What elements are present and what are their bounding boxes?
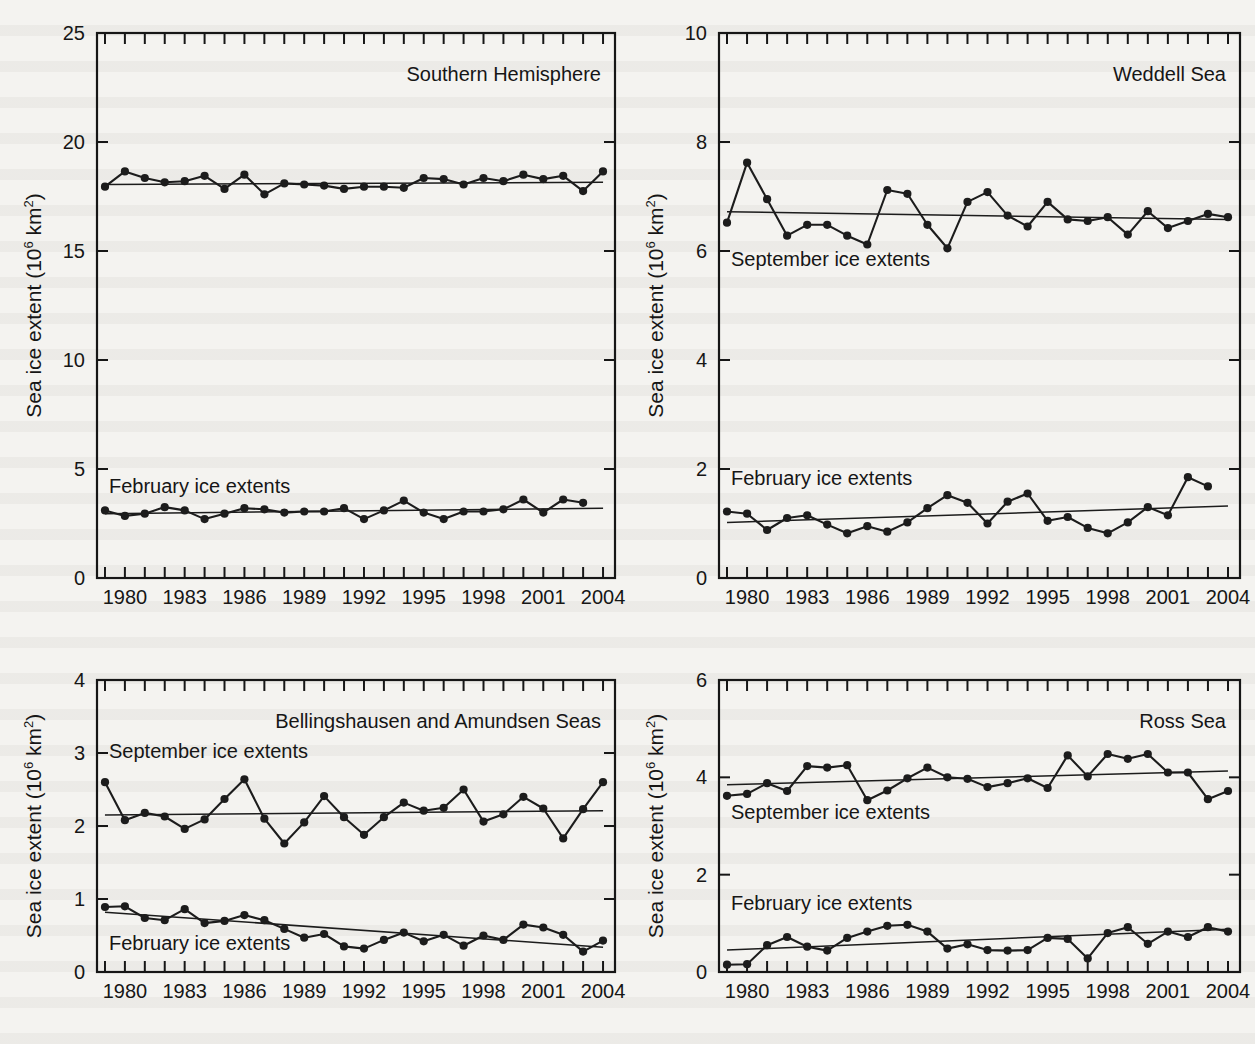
data-point [519, 793, 527, 801]
x-tick-label: 2004 [1206, 586, 1251, 608]
data-point [923, 221, 931, 229]
data-point [121, 167, 129, 175]
data-point [1204, 482, 1212, 490]
data-point [783, 514, 791, 522]
data-point [1144, 940, 1152, 948]
data-point [763, 526, 771, 534]
data-point [220, 185, 228, 193]
data-point [121, 902, 129, 910]
panel-title: Southern Hemisphere [406, 63, 601, 85]
x-tick-label: 1995 [1025, 586, 1070, 608]
data-point [400, 184, 408, 192]
data-point [161, 178, 169, 186]
data-point [101, 778, 109, 786]
data-point [121, 816, 129, 824]
x-tick-label: 2004 [581, 586, 626, 608]
y-tick-label: 0 [74, 567, 85, 589]
y-axis-title: Sea ice extent (106 km2) [21, 714, 45, 939]
data-point [1004, 947, 1012, 955]
series-label-february: February ice extents [109, 475, 290, 497]
trend-line-september [105, 811, 603, 815]
data-point [579, 805, 587, 813]
x-tick-label: 1992 [965, 980, 1010, 1002]
data-point [380, 506, 388, 514]
data-point [983, 783, 991, 791]
y-axis-title-text: Sea ice extent (106 km2) [21, 193, 45, 418]
y-tick-label: 4 [696, 349, 707, 371]
series-label-september: September ice extents [109, 740, 308, 762]
data-point [803, 221, 811, 229]
x-tick-label: 1986 [845, 980, 890, 1002]
data-point [943, 244, 951, 252]
data-point [141, 510, 149, 518]
data-point [903, 190, 911, 198]
data-point [599, 937, 607, 945]
data-point [400, 497, 408, 505]
data-point [1064, 215, 1072, 223]
data-point [1184, 768, 1192, 776]
data-point [220, 510, 228, 518]
data-point [201, 919, 209, 927]
data-point [923, 764, 931, 772]
data-point [579, 187, 587, 195]
x-tick-label: 1998 [461, 980, 506, 1002]
data-point [943, 945, 951, 953]
data-point [1204, 923, 1212, 931]
y-tick-label: 8 [696, 131, 707, 153]
data-point [380, 936, 388, 944]
data-point [240, 171, 248, 179]
data-point [499, 810, 507, 818]
data-point [723, 219, 731, 227]
x-tick-label: 1995 [401, 980, 446, 1002]
data-point [823, 764, 831, 772]
data-point [141, 914, 149, 922]
data-point [440, 804, 448, 812]
data-point [1164, 928, 1172, 936]
y-axis-ticks: 0510152025 [63, 22, 615, 589]
data-point [1164, 224, 1172, 232]
data-point [360, 831, 368, 839]
data-point [400, 799, 408, 807]
data-point [883, 528, 891, 536]
data-point [599, 778, 607, 786]
data-point [1124, 518, 1132, 526]
data-point [539, 804, 547, 812]
data-point [300, 818, 308, 826]
data-point [743, 159, 751, 167]
data-point [1104, 529, 1112, 537]
data-point [181, 177, 189, 185]
data-point [923, 928, 931, 936]
y-tick-label: 2 [696, 458, 707, 480]
y-tick-label: 3 [74, 742, 85, 764]
data-point [1204, 210, 1212, 218]
x-tick-label: 2004 [1206, 980, 1251, 1002]
data-point [220, 917, 228, 925]
data-point [519, 171, 527, 179]
data-point [863, 522, 871, 530]
data-point [723, 961, 731, 969]
y-tick-label: 6 [696, 669, 707, 691]
data-point [1164, 511, 1172, 519]
x-tick-label: 1980 [725, 586, 770, 608]
data-point [883, 922, 891, 930]
data-point [499, 177, 507, 185]
panel-southern-hemisphere: 1980198319861989199219951998200120040510… [0, 0, 628, 616]
data-point [823, 221, 831, 229]
x-tick-label: 2001 [1146, 980, 1191, 1002]
data-point [559, 172, 567, 180]
x-tick-labels: 198019831986198919921995199820012004 [103, 980, 626, 1002]
data-point [863, 928, 871, 936]
data-point [943, 773, 951, 781]
data-point [1064, 935, 1072, 943]
series-label-february: February ice extents [109, 932, 290, 954]
data-point [260, 505, 268, 513]
y-tick-label: 4 [74, 669, 85, 691]
y-axis-title-text: Sea ice extent (106 km2) [643, 193, 667, 418]
data-point [579, 499, 587, 507]
x-tick-label: 1983 [785, 980, 830, 1002]
chart-ross-sea: 1980198319861989199219951998200120040246… [628, 616, 1255, 1044]
x-tick-label: 2004 [581, 980, 626, 1002]
data-point [723, 792, 731, 800]
data-point [1004, 212, 1012, 220]
data-point [440, 175, 448, 183]
